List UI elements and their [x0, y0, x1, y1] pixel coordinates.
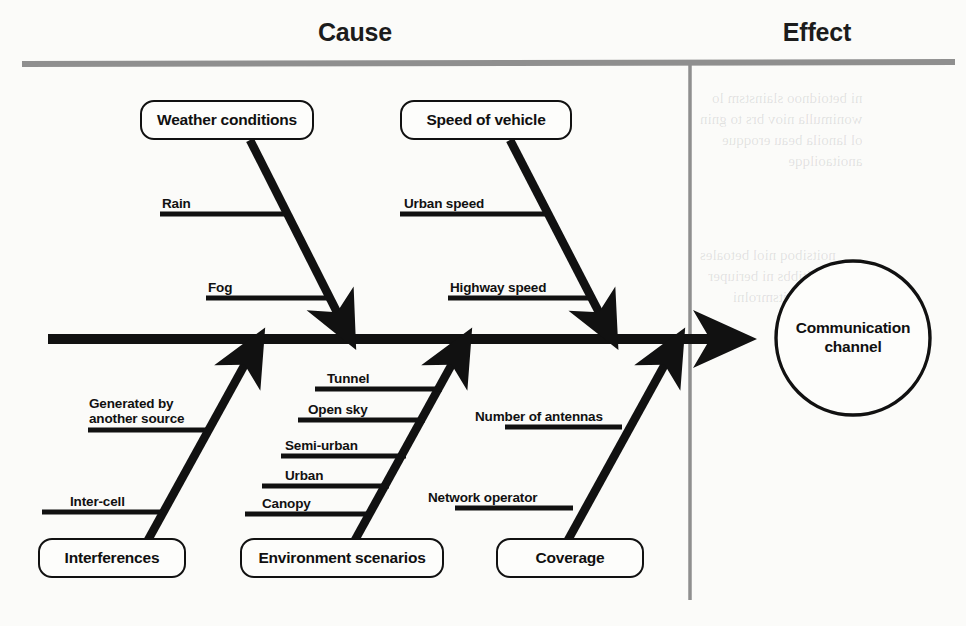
cause-label-highway-speed: Highway speed — [450, 280, 546, 295]
cause-label-rain: Rain — [162, 196, 191, 211]
effect-header-label: Effect — [783, 18, 851, 47]
category-box-weather-conditions[interactable]: Weather conditions — [140, 100, 314, 140]
cause-label-generated-by-another-source: Generated by another source — [89, 396, 184, 426]
branch-line-weather — [250, 140, 342, 322]
cause-label-urban-speed: Urban speed — [404, 196, 484, 211]
cause-label-line-2: another source — [89, 411, 184, 426]
category-box-speed-of-vehicle[interactable]: Speed of vehicle — [400, 100, 572, 140]
cause-label-tunnel: Tunnel — [327, 371, 369, 386]
cause-label-line-1: Generated by — [89, 396, 173, 411]
cause-label-open-sky: Open sky — [308, 402, 368, 417]
category-box-environment-scenarios[interactable]: Environment scenarios — [240, 538, 444, 578]
cause-label-urban: Urban — [285, 468, 323, 483]
branch-line-interferences — [148, 355, 250, 540]
effect-label-line-2: channel — [824, 338, 881, 355]
effect-label-line-1: Communication — [796, 319, 911, 336]
cause-label-network-operator: Network operator — [428, 490, 537, 505]
category-box-coverage[interactable]: Coverage — [496, 538, 644, 578]
cause-label-semi-urban: Semi-urban — [285, 438, 358, 453]
branch-line-coverage — [568, 355, 670, 540]
cause-header-label: Cause — [318, 18, 392, 47]
category-box-interferences[interactable]: Interferences — [38, 538, 186, 578]
cause-label-canopy: Canopy — [262, 496, 311, 511]
effect-node-label: Communication channel — [778, 318, 928, 356]
fishbone-diagram-page: ni betoidnoo slainstsm lowonimulla niov … — [0, 0, 966, 626]
cause-label-inter-cell: Inter-cell — [70, 494, 125, 509]
fishbone-canvas — [0, 0, 966, 626]
header-rule — [22, 62, 955, 64]
cause-label-number-of-antennas: Number of antennas — [475, 409, 603, 424]
cause-label-fog: Fog — [208, 280, 232, 295]
